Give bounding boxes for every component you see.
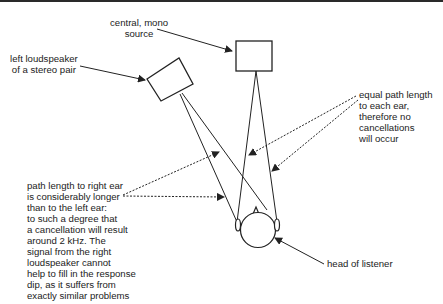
left-speaker — [147, 58, 193, 101]
longer-path-arrow-1 — [123, 152, 219, 195]
label-head: head of listener — [327, 258, 393, 269]
label-central-source: central, mono source — [110, 17, 168, 39]
sound-paths — [180, 71, 277, 222]
equal-path-arrow-1 — [249, 96, 356, 155]
label-left-speaker: left loudspeaker of a stereo pair — [10, 53, 78, 75]
head-arrow — [275, 238, 324, 264]
left-speaker-arrow — [80, 66, 145, 80]
central-speaker — [236, 41, 272, 71]
label-longer-path: path length to right ear is considerably… — [27, 180, 136, 301]
longer-path-arrow-2 — [123, 196, 224, 197]
central-source-arrow — [157, 29, 232, 51]
listener-head — [236, 207, 280, 248]
label-equal-path: equal path length to each ear, therefore… — [359, 89, 433, 144]
